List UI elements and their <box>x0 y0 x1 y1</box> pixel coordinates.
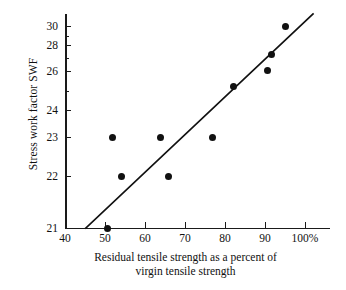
x-tick-60 <box>145 222 146 228</box>
x-tick-label-40: 40 <box>45 232 85 244</box>
y-tick-label-26: 26 <box>14 66 58 77</box>
x-axis-title-line-1: Residual tensile strength as a percent o… <box>43 250 328 264</box>
y-tick-24 <box>65 110 71 111</box>
x-axis-title-line-2: virgin tensile strength <box>43 264 328 278</box>
data-point <box>165 173 172 180</box>
y-tick-30 <box>65 26 71 27</box>
x-tick-label-90: 90 <box>245 232 285 244</box>
y-tick-25 <box>65 91 69 92</box>
x-tick-label-70: 70 <box>165 232 205 244</box>
y-tick-21 <box>65 228 71 229</box>
x-tick-70 <box>185 222 186 228</box>
data-point <box>157 134 164 141</box>
data-point <box>109 134 116 141</box>
data-point <box>118 173 125 180</box>
x-tick-label-50: 50 <box>85 232 125 244</box>
data-point <box>230 83 237 90</box>
x-tick-80 <box>225 222 226 228</box>
y-tick-label-28: 28 <box>14 40 58 51</box>
y-tick-22 <box>65 176 71 177</box>
y-tick-27 <box>65 58 69 59</box>
scatter-chart: Stress work factor SWF 30282624232221 40… <box>0 0 346 290</box>
x-tick-40 <box>65 222 66 228</box>
data-point <box>268 51 275 58</box>
data-point <box>264 67 271 74</box>
x-tick-label-100: 100% <box>285 232 325 244</box>
data-point <box>104 225 111 232</box>
y-tick-29 <box>65 36 69 37</box>
data-point <box>209 134 216 141</box>
x-tick-label-80: 80 <box>205 232 245 244</box>
y-tick-28 <box>65 45 71 46</box>
data-point <box>282 23 289 30</box>
y-tick-label-24: 24 <box>14 105 58 116</box>
x-tick-label-60: 60 <box>125 232 165 244</box>
x-tick-90 <box>265 222 266 228</box>
y-tick-label-30: 30 <box>14 21 58 32</box>
y-tick-label-22: 22 <box>14 171 58 182</box>
x-tick-100 <box>305 222 306 228</box>
y-tick-26 <box>65 71 71 72</box>
y-tick-23 <box>65 137 71 138</box>
x-axis-title: Residual tensile strength as a percent o… <box>43 250 328 278</box>
y-tick-label-23: 23 <box>14 132 58 143</box>
